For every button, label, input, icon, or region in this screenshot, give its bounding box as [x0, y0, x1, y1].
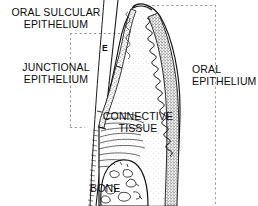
- label-oral-epithelium: ORAL EPITHELIUM: [192, 63, 258, 87]
- label-bone: BONE: [90, 182, 130, 194]
- label-enamel-marker: E: [102, 42, 112, 54]
- gingival-anatomy-figure: ORAL SULCULAR EPITHELIUM JUNCTIONAL EPIT…: [0, 0, 258, 206]
- cementum-hatching: [88, 130, 98, 206]
- label-junctional-epithelium: JUNCTIONAL EPITHELIUM: [0, 61, 112, 85]
- label-oral-sulcular-epithelium: ORAL SULCULAR EPITHELIUM: [0, 6, 112, 30]
- label-connective-tissue: CONNECTIVE TISSUE: [96, 110, 180, 134]
- anatomy-line-drawing: [0, 0, 258, 206]
